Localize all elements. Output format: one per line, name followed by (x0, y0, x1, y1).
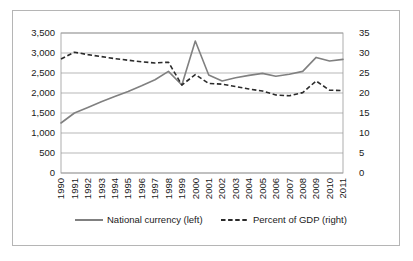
right-axis-tick-label: 25 (359, 67, 370, 78)
x-axis-tick-label: 2001 (203, 178, 214, 199)
x-axis-tick-label: 1996 (136, 178, 147, 199)
x-axis-tick-label: 2010 (324, 178, 335, 199)
x-axis-tick-label: 2005 (257, 178, 268, 199)
right-axis-tick-label: 35 (359, 27, 370, 38)
x-axis-tick-label: 2002 (216, 178, 227, 199)
gridlines (61, 33, 343, 173)
x-axis-tick-label: 2008 (297, 178, 308, 199)
left-axis-tick-label: 2,000 (31, 87, 55, 98)
plot-area-frame (61, 33, 343, 173)
dual-axis-line-chart: 05001,0001,5002,0002,5003,0003,500 05101… (13, 11, 399, 245)
right-axis-tick-label: 20 (359, 87, 370, 98)
right-axis-tick-label: 10 (359, 127, 370, 138)
right-axis-tick-label: 5 (359, 147, 364, 158)
x-axis-tick-label: 1999 (176, 178, 187, 199)
x-axis-tick-label: 2009 (310, 178, 321, 199)
left-axis-tick-label: 0 (50, 167, 55, 178)
legend-label-2: Percent of GDP (right) (253, 214, 347, 225)
x-axis-tick-label: 1998 (163, 178, 174, 199)
left-axis-tick-label: 3,500 (31, 27, 55, 38)
x-axis-tick-label: 2000 (190, 178, 201, 199)
left-axis-tick-label: 500 (39, 147, 55, 158)
x-axis-tick-label: 1993 (96, 178, 107, 199)
right-axis-tick-label: 30 (359, 47, 370, 58)
left-axis-tick-labels: 05001,0001,5002,0002,5003,0003,500 (31, 27, 55, 178)
chart-legend: National currency (left)Percent of GDP (… (75, 214, 347, 225)
x-axis-tick-label: 2011 (337, 178, 348, 198)
x-axis-tick-label: 2003 (230, 178, 241, 199)
right-axis-tick-labels: 05101520253035 (359, 27, 370, 178)
x-axis-tick-label: 2007 (284, 178, 295, 199)
left-axis-tick-label: 3,000 (31, 47, 55, 58)
x-axis-tick-label: 2004 (243, 178, 254, 199)
legend-label-1: National currency (left) (107, 214, 203, 225)
x-axis-tick-label: 1997 (149, 178, 160, 199)
right-axis-tick-label: 0 (359, 167, 364, 178)
x-axis-tick-label: 1992 (82, 178, 93, 199)
left-axis-tick-label: 1,500 (31, 107, 55, 118)
left-axis-tick-label: 2,500 (31, 67, 55, 78)
left-axis-tick-label: 1,000 (31, 127, 55, 138)
chart-card: 05001,0001,5002,0002,5003,0003,500 05101… (12, 10, 400, 246)
x-axis-tick-label: 1994 (109, 178, 120, 199)
x-axis-tick-label: 2006 (270, 178, 281, 199)
x-axis-tick-label: 1995 (122, 178, 133, 199)
x-axis-tick-labels: 1990199119921993199419951996199719981999… (55, 178, 348, 199)
x-axis-tick-label: 1990 (55, 178, 66, 199)
right-axis-tick-label: 15 (359, 107, 370, 118)
x-axis-tick-label: 1991 (69, 178, 80, 199)
